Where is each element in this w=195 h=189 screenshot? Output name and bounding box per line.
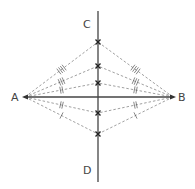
dashed-line (98, 97, 173, 113)
equidistant-dashed-lines (25, 42, 173, 134)
dashed-line (25, 42, 98, 97)
tick-mark (60, 112, 63, 118)
dashed-line (98, 83, 173, 97)
dashed-line (25, 83, 98, 97)
label-b: B (178, 91, 186, 104)
dashed-line (98, 42, 173, 97)
dashed-line (25, 97, 98, 113)
tick-mark (134, 102, 135, 109)
diagram-canvas: A B C D (0, 0, 195, 189)
arrow-a-icon (22, 95, 28, 100)
label-c: C (83, 18, 91, 31)
label-a: A (11, 91, 19, 104)
tick-mark (134, 86, 135, 93)
label-d: D (83, 164, 91, 177)
arrow-b-icon (170, 95, 176, 100)
tick-mark (134, 112, 137, 118)
